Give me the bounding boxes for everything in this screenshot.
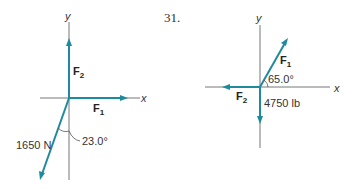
right-angle-label: 65.0° xyxy=(268,73,294,85)
right-f1-label: F1 xyxy=(280,54,292,69)
problem-number: 31. xyxy=(164,10,180,25)
right-y-axis-label: y xyxy=(255,12,263,24)
right-4750lb-label: 4750 lb xyxy=(264,97,300,109)
right-x-axis-label: x xyxy=(333,82,340,94)
right-4750lb-arrowhead-icon xyxy=(257,116,263,124)
left-f1-label: F1 xyxy=(93,102,105,117)
left-angle-leader xyxy=(69,131,80,141)
left-x-axis-label: x xyxy=(140,92,147,104)
left-f2-arrowhead-icon xyxy=(66,38,72,46)
vector-diagrams: y x F2 F1 1650 N 23.0° 31. y x F1 65.0° xyxy=(0,0,344,190)
left-angle-arc xyxy=(58,128,69,132)
left-f2-label: F2 xyxy=(73,65,85,80)
left-f1-arrowhead-icon xyxy=(120,95,128,101)
left-1650n-label: 1650 N xyxy=(16,139,52,151)
right-f2-label: F2 xyxy=(236,90,248,105)
right-diagram: y x F1 65.0° F2 4750 lb xyxy=(205,12,340,148)
right-f1-arrowhead-icon xyxy=(281,38,288,46)
left-1650n-vector xyxy=(42,98,69,174)
left-1650n-arrowhead-icon xyxy=(39,171,45,180)
right-f2-arrowhead-icon xyxy=(222,84,230,90)
left-diagram: y x F2 F1 1650 N 23.0° xyxy=(16,10,147,180)
left-y-axis-label: y xyxy=(64,10,72,22)
left-angle-label: 23.0° xyxy=(82,135,108,147)
